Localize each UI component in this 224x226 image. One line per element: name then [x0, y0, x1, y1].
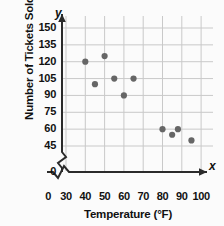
y-tick-label: 135 [22, 38, 56, 50]
x-tick-label: 100 [190, 190, 212, 202]
y-tick-label: 105 [22, 72, 56, 84]
data-point [130, 75, 136, 81]
data-point [121, 92, 127, 98]
x-axis-letter: x [209, 159, 216, 173]
x-axis-title: Temperature (°F) [40, 208, 216, 220]
y-tick-label: 75 [22, 105, 56, 117]
data-point [188, 137, 194, 143]
data-point-group [82, 53, 194, 143]
x-axis-line [47, 166, 207, 178]
vertical-gridlines [66, 16, 201, 171]
y-axis-line [58, 14, 66, 172]
data-point [175, 126, 181, 132]
data-point [169, 132, 175, 138]
y-axis-letter: y [55, 6, 62, 20]
scatter-plot-figure: Number of Tickets Sold Temperature (°F) … [0, 0, 224, 226]
data-point [102, 53, 108, 59]
y-tick-label: 60 [22, 122, 56, 134]
y-tick-label: 150 [22, 21, 56, 33]
x-axis-arrowhead [199, 168, 207, 176]
y-tick-label: 90 [22, 88, 56, 100]
y-tick-label: 120 [22, 55, 56, 67]
data-point [82, 59, 88, 65]
y-tick-label: 45 [22, 139, 56, 151]
y-tick-label: 0 [22, 165, 56, 177]
data-point [159, 126, 165, 132]
data-point [92, 81, 98, 87]
data-point [111, 75, 117, 81]
